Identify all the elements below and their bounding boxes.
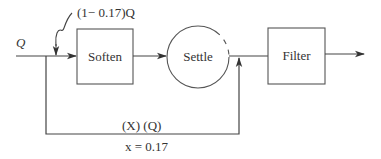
bypass-fraction-label: x = 0.17 (125, 140, 168, 153)
settle-label: Settle (167, 50, 229, 63)
squiggle-annotation-pointer (56, 13, 72, 46)
soften-label: Soften (77, 50, 133, 63)
soften-flow-label: (1− 0.17)Q (77, 6, 135, 19)
bypass-flow-label: (X) (Q) (122, 119, 161, 132)
input-flow-label: Q (16, 36, 25, 49)
filter-label: Filter (268, 49, 325, 62)
process-flow-diagram (0, 0, 381, 159)
